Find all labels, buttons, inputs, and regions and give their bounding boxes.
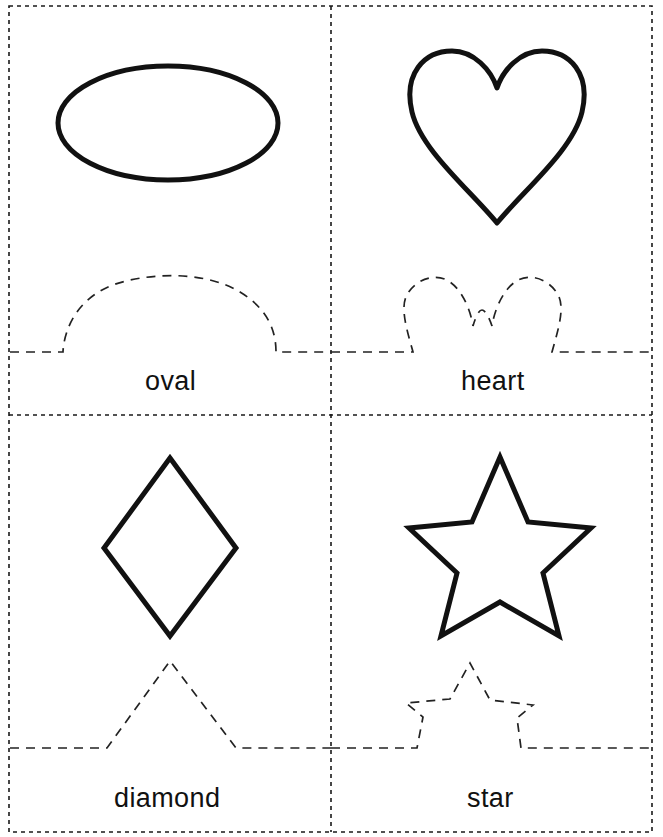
- card-label-diamond: diamond: [114, 785, 220, 812]
- card-label-star: star: [467, 785, 514, 812]
- worksheet-page: oval heart diamond star: [0, 0, 663, 837]
- card-label-heart: heart: [461, 368, 525, 395]
- card-label-oval: oval: [145, 368, 196, 395]
- worksheet-canvas: [0, 0, 663, 837]
